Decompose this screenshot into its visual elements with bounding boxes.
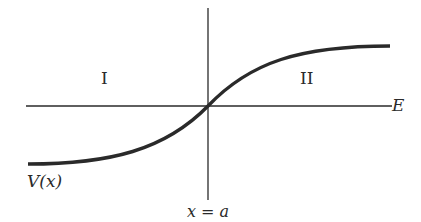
diagram-canvas — [0, 0, 421, 222]
potential-curve — [28, 46, 390, 164]
potential-curve-label: V(x) — [27, 173, 62, 190]
region-ii-label: II — [300, 70, 313, 87]
region-i-label: I — [101, 70, 108, 87]
energy-axis-label: E — [392, 97, 404, 114]
x-equals-a-label: x = a — [187, 204, 229, 220]
